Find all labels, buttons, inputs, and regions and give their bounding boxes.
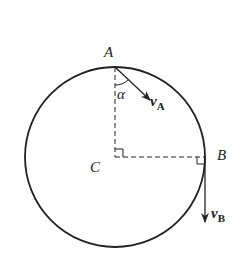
point-label-a: A (103, 44, 114, 60)
vector-label-vb: vB (211, 205, 226, 224)
point-label-c: C (90, 159, 101, 175)
right-angle-marker-b (197, 157, 205, 164)
vector-label-va: vA (150, 93, 165, 112)
diagram-canvas: A B C α vA vB (0, 0, 248, 263)
vector-va-subscript: A (157, 100, 165, 112)
point-label-b: B (217, 147, 226, 163)
angle-alpha-arc (115, 80, 128, 85)
vector-vb-subscript: B (218, 212, 226, 224)
angle-label-alpha: α (117, 86, 126, 102)
circular-motion-diagram: A B C α vA vB (0, 0, 248, 263)
right-angle-marker-c (115, 149, 123, 157)
